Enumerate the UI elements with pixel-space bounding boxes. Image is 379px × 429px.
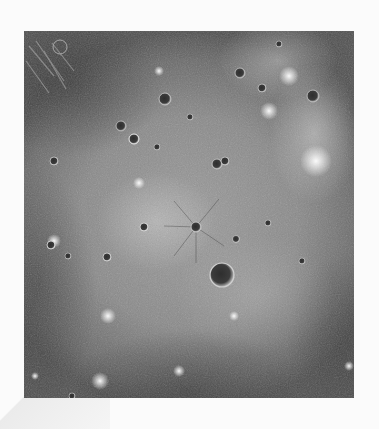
surface-features — [24, 31, 354, 398]
page — [0, 0, 379, 429]
planetary-surface-photo — [24, 31, 354, 398]
